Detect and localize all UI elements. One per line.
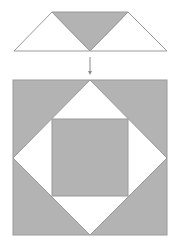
quilt-diagram <box>0 0 179 247</box>
square-in-a-square-block <box>13 80 167 235</box>
flying-geese-unit <box>14 12 167 51</box>
gray-inner-square <box>52 119 128 196</box>
down-arrow-icon <box>88 57 92 75</box>
